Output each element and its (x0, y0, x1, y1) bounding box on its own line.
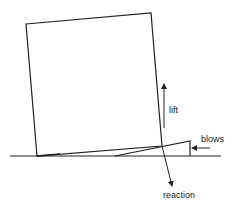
block (26, 13, 162, 156)
blows-label: blows (201, 135, 224, 144)
reaction-label: reaction (163, 191, 195, 200)
lift-label: lift (169, 106, 178, 115)
wedge-lift-diagram (0, 0, 233, 209)
diagram-canvas: lift blows reaction (0, 0, 233, 209)
reaction-arrow (162, 146, 172, 186)
